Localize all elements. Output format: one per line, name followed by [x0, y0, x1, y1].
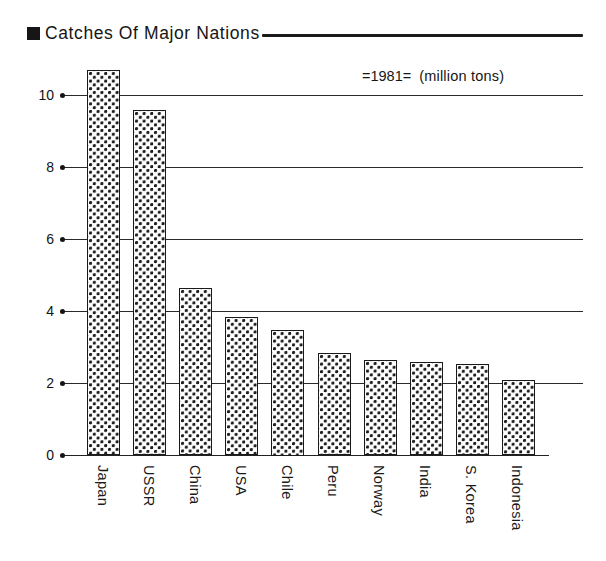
bar [225, 317, 258, 456]
x-axis-category-label: Chile [279, 465, 295, 500]
y-axis-tick-label: 0 [20, 447, 54, 463]
x-axis-category-label: Peru [325, 465, 341, 497]
y-axis-tick-dot [60, 237, 65, 242]
x-axis-category-label: S. Korea [463, 465, 479, 524]
bar [456, 364, 489, 456]
y-axis-tick-dot [60, 453, 65, 458]
bar [410, 362, 443, 456]
x-axis-category-label: USA [233, 465, 249, 496]
y-axis-tick-dot [60, 165, 65, 170]
bar [133, 110, 166, 456]
y-axis-tick-label: 6 [20, 231, 54, 247]
gridline [62, 95, 583, 96]
bar [318, 353, 351, 456]
y-axis-tick-label: 2 [20, 375, 54, 391]
x-axis-category-label: China [187, 465, 203, 504]
x-axis-category-label: Norway [371, 465, 387, 516]
y-axis-tick-label: 10 [20, 87, 54, 103]
x-axis-category-label: Japan [95, 465, 111, 506]
bar [179, 288, 212, 455]
bar [502, 380, 535, 456]
y-axis-tick-label: 8 [20, 159, 54, 175]
y-axis-tick-dot [60, 381, 65, 386]
y-axis-tick-label: 4 [20, 303, 54, 319]
bar-chart: 0246810JapanUSSRChinaUSAChilePeruNorwayI… [0, 0, 606, 561]
x-axis-category-label: USSR [141, 465, 157, 507]
bar [364, 360, 397, 455]
x-axis-category-label: Indonesia [509, 465, 525, 531]
y-axis-tick-dot [60, 309, 65, 314]
x-axis-category-label: India [417, 465, 433, 498]
bar [271, 330, 304, 456]
y-axis-tick-dot [60, 93, 65, 98]
bar [87, 70, 120, 455]
